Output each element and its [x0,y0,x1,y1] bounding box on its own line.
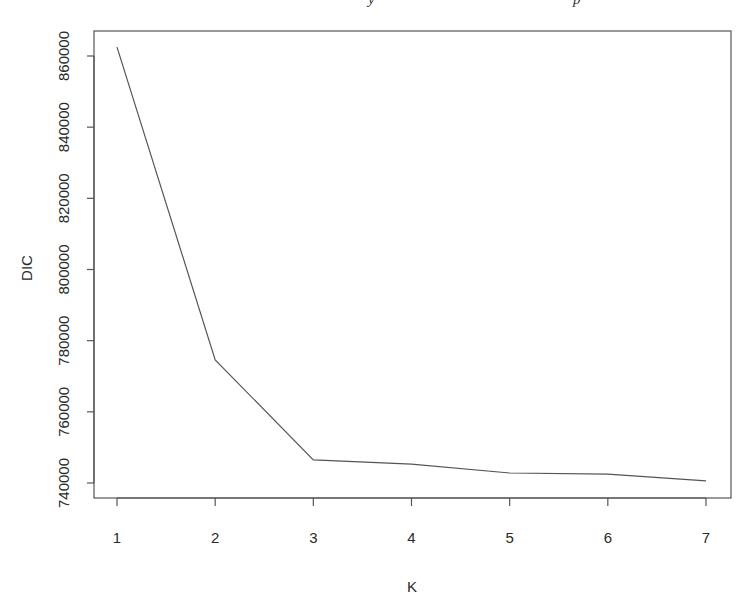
x-axis: 1234567 [113,498,710,546]
caption-fragment-2: p [573,0,581,8]
y-tick-label: 820000 [55,173,72,223]
y-tick-label: 840000 [55,102,72,152]
chart-container: y p 740000760000780000800000820000840000… [0,0,751,595]
y-tick-label: 760000 [55,387,72,437]
x-tick-label: 7 [702,529,710,546]
x-tick-label: 1 [113,529,121,546]
y-axis: 7400007600007800008000008200008400008600… [55,31,94,508]
y-axis-label: DIC [18,255,35,281]
y-tick-label: 800000 [55,244,72,294]
y-tick-label: 740000 [55,458,72,508]
x-tick-label: 6 [604,529,612,546]
plot-frame [94,31,731,498]
y-tick-label: 860000 [55,31,72,81]
y-tick-label: 780000 [55,316,72,366]
x-tick-label: 4 [407,529,415,546]
line-chart: 7400007600007800008000008200008400008600… [0,0,751,595]
caption-fragment-1: y [368,0,375,8]
x-axis-label: K [407,578,417,595]
x-tick-label: 5 [505,529,513,546]
dic-line-series [117,47,706,481]
x-tick-label: 3 [309,529,317,546]
x-tick-label: 2 [211,529,219,546]
